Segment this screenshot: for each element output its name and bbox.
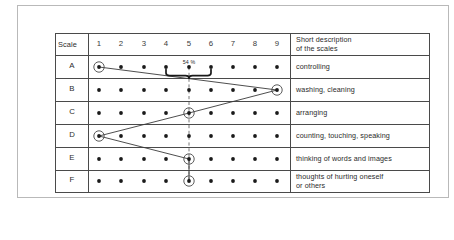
column-header-8: 8: [253, 40, 257, 49]
column-header-3: 3: [142, 40, 146, 49]
column-header-4: 4: [164, 40, 168, 49]
figure-canvas: [55, 33, 430, 193]
scale-column-header: Scale: [58, 41, 77, 50]
description-c: arranging: [296, 109, 327, 118]
percent-annotation-label: 54 %: [183, 58, 195, 67]
column-header-1: 1: [97, 40, 101, 49]
description-column-header-line2: of the scales: [296, 45, 338, 54]
column-header-9: 9: [275, 40, 279, 49]
row-label-c: C: [69, 108, 75, 117]
column-header-2: 2: [119, 40, 123, 49]
row-label-f: F: [70, 176, 75, 185]
row-label-a: A: [69, 62, 74, 71]
table-borders: [56, 34, 430, 193]
column-header-5: 5: [187, 40, 191, 49]
column-header-7: 7: [231, 40, 235, 49]
row-label-d: D: [69, 131, 75, 140]
description-a: controlling: [296, 63, 330, 72]
row-label-b: B: [69, 85, 74, 94]
description-b: washing, cleaning: [296, 86, 355, 95]
description-d: counting, touching, speaking: [296, 132, 390, 141]
description-e: thinking of words and images: [296, 155, 392, 164]
scale-profile-figure: Scale 1 2 3 4 5 6 7 8 9 Short descriptio…: [55, 33, 430, 193]
description-f-line2: or others: [296, 182, 325, 191]
row-label-e: E: [69, 154, 74, 163]
column-header-6: 6: [209, 40, 213, 49]
